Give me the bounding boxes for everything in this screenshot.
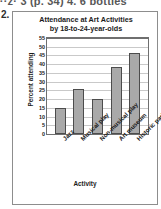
bar bbox=[55, 108, 66, 134]
y-tick-label: 40 bbox=[39, 61, 45, 67]
page-header-strip: ···z· 3 (p. 34) 4. 6 bottles bbox=[0, 0, 161, 9]
y-tick-label: 45 bbox=[39, 52, 45, 58]
y-tick-label: 25 bbox=[39, 87, 45, 93]
y-tick-label: 20 bbox=[39, 96, 45, 102]
page-header-text: ···z· 3 (p. 34) 4. 6 bottles bbox=[0, 0, 127, 7]
chart-title-line2: by 18-to-24-year-olds bbox=[21, 25, 151, 34]
chart-figure: Attendance at Art Activities by 18-to-24… bbox=[12, 11, 158, 205]
chart-title: Attendance at Art Activities by 18-to-24… bbox=[21, 16, 151, 33]
bar bbox=[73, 89, 84, 134]
y-tick-label: 50 bbox=[39, 44, 45, 50]
problem-number: 2. bbox=[1, 9, 9, 20]
y-tick-label: 10 bbox=[39, 114, 45, 120]
y-tick-label: 30 bbox=[39, 79, 45, 85]
y-tick-label: 55 bbox=[39, 35, 45, 41]
y-tick-label: 5 bbox=[42, 122, 45, 128]
y-axis-title: Percent attending bbox=[27, 42, 34, 118]
y-tick-label: 35 bbox=[39, 70, 45, 76]
y-tick-label: 0 bbox=[42, 131, 45, 137]
chart-title-line1: Attendance at Art Activities bbox=[39, 15, 132, 24]
y-tick-label: 15 bbox=[39, 105, 45, 111]
x-axis-title: Activity bbox=[13, 180, 157, 187]
